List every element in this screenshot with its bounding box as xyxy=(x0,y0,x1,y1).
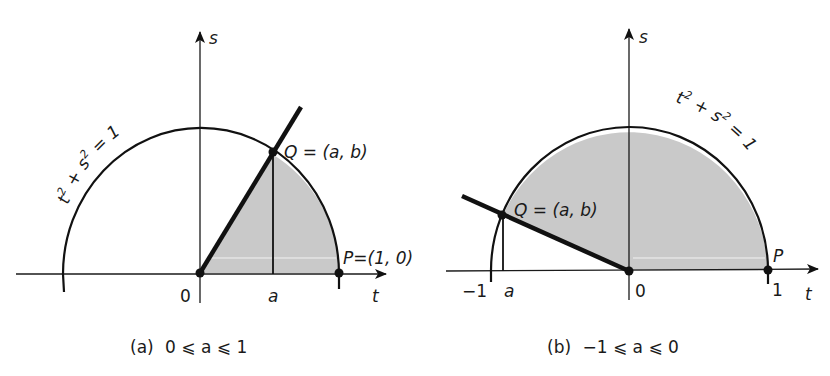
equation-label-a: t2 + s2 = 1 xyxy=(53,121,124,207)
minus-one-label-b: −1 xyxy=(462,281,487,301)
point-q-label-b: Q = (a, b) xyxy=(514,200,598,220)
origin-label-a: 0 xyxy=(180,286,191,306)
origin-point-a xyxy=(196,269,205,278)
panel-b: s t 0 a −1 1 Q = (a, b) P t2 + s2 = 1 (b… xyxy=(446,27,818,357)
a-label-a: a xyxy=(268,286,278,306)
point-p-a xyxy=(335,269,344,278)
point-p-label-a: P=(1, 0) xyxy=(343,248,413,268)
a-label-b: a xyxy=(504,281,514,301)
point-q-label-a: Q = (a, b) xyxy=(284,142,368,162)
point-q-a xyxy=(269,148,278,157)
panel-a: s t 0 a Q = (a, b) P=(1, 0) t2 + s2 = 1 … xyxy=(16,28,413,357)
caption-b-condition: −1 ⩽ a ⩽ 0 xyxy=(582,337,678,357)
point-p-label-b: P xyxy=(773,246,784,266)
t-axis-label-a: t xyxy=(372,286,380,306)
caption-a-condition: 0 ⩽ a ⩽ 1 xyxy=(165,337,247,357)
s-axis-label-a: s xyxy=(209,28,218,48)
origin-point-b xyxy=(625,267,634,276)
caption-a: (a) 0 ⩽ a ⩽ 1 xyxy=(130,337,247,357)
point-q-b xyxy=(498,211,507,220)
shaded-sector-a xyxy=(200,154,339,273)
s-axis-label-b: s xyxy=(639,27,648,47)
point-p-b xyxy=(764,266,773,275)
equation-label-b: t2 + s2 = 1 xyxy=(674,87,761,155)
figure-canvas: s t 0 a Q = (a, b) P=(1, 0) t2 + s2 = 1 … xyxy=(0,0,830,376)
origin-label-b: 0 xyxy=(635,281,646,301)
t-axis-label-b: t xyxy=(805,284,813,304)
one-label-b: 1 xyxy=(772,280,783,300)
caption-b: (b) −1 ⩽ a ⩽ 0 xyxy=(547,337,679,357)
